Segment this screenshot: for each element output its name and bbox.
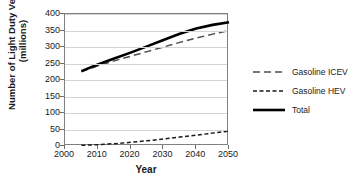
- x-tick-label: 2000: [54, 150, 74, 159]
- x-tick-label: 2010: [87, 150, 107, 159]
- legend-item: Gasoline ICEV: [252, 62, 361, 81]
- y-tick-mark: [60, 112, 64, 113]
- x-tick-mark: [195, 145, 196, 149]
- legend-label: Gasoline ICEV: [292, 67, 348, 77]
- gridline: [65, 14, 227, 15]
- x-tick-mark: [162, 145, 163, 149]
- series-line-gasoline-icev: [81, 31, 229, 72]
- legend-key-total: [252, 105, 286, 115]
- y-tick-label: 200: [45, 75, 60, 84]
- gridline: [65, 97, 227, 98]
- y-tick-label: 400: [45, 9, 60, 18]
- y-tick-label: 350: [45, 26, 60, 35]
- gridline: [65, 80, 227, 81]
- legend-key-gasoline-hev: [252, 86, 286, 96]
- y-axis-title-line2: (millions): [17, 0, 28, 116]
- legend-label: Total: [292, 105, 310, 115]
- chart-legend: Gasoline ICEVGasoline HEVTotal: [252, 62, 361, 119]
- legend-key-gasoline-icev: [252, 67, 286, 77]
- legend-label: Gasoline HEV: [292, 86, 345, 96]
- legend-item: Total: [252, 100, 361, 119]
- x-tick-label: 2020: [120, 150, 140, 159]
- y-tick-mark: [60, 30, 64, 31]
- x-tick-mark: [64, 145, 65, 149]
- x-tick-label: 2030: [152, 150, 172, 159]
- y-axis-tick-labels: 050100150200250300350400: [32, 8, 60, 146]
- y-tick-mark: [60, 79, 64, 80]
- gridline: [65, 130, 227, 131]
- gridline: [65, 47, 227, 48]
- plot-area: [64, 13, 228, 145]
- x-tick-mark: [130, 145, 131, 149]
- x-tick-label: 2040: [185, 150, 205, 159]
- legend-item: Gasoline HEV: [252, 81, 361, 100]
- x-tick-label: 2050: [218, 150, 238, 159]
- x-axis-tick-labels: 200020102020203020402050: [0, 150, 361, 162]
- y-tick-mark: [60, 63, 64, 64]
- y-tick-mark: [60, 129, 64, 130]
- x-tick-mark: [228, 145, 229, 149]
- y-tick-mark: [60, 46, 64, 47]
- y-tick-mark: [60, 13, 64, 14]
- y-tick-mark: [60, 96, 64, 97]
- gridline: [65, 64, 227, 65]
- y-tick-label: 100: [45, 108, 60, 117]
- y-axis-title-line1: Number of Light Duty Vehicles: [6, 0, 17, 110]
- chart-figure: Number of Light Duty Vehicles (millions)…: [0, 0, 361, 184]
- gridline: [65, 113, 227, 114]
- y-tick-label: 50: [50, 125, 60, 134]
- x-tick-mark: [97, 145, 98, 149]
- x-axis-title: Year: [64, 164, 228, 175]
- series-line-gasoline-hev: [81, 131, 229, 145]
- y-tick-label: 250: [45, 59, 60, 68]
- y-tick-label: 150: [45, 92, 60, 101]
- gridline: [65, 31, 227, 32]
- y-tick-label: 300: [45, 42, 60, 51]
- y-axis-title: Number of Light Duty Vehicles (millions): [6, 0, 28, 116]
